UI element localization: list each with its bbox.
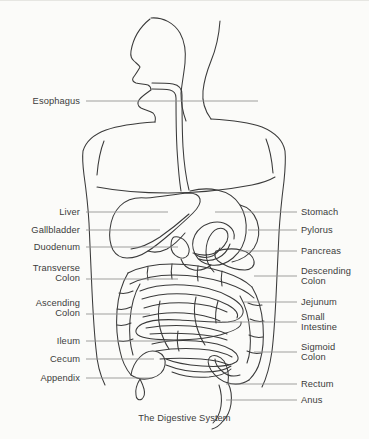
- esophagus-right-wall: [152, 83, 189, 190]
- sigmoid-colon-outline: [208, 356, 249, 384]
- ascending-colon-haustra-b: [117, 307, 131, 309]
- label-pancreas: Pancreas: [301, 246, 365, 256]
- figure-caption: The Digestive System: [0, 413, 369, 423]
- label-jejunum: Jejunum: [301, 297, 365, 307]
- esophagus-left-wall: [152, 89, 181, 191]
- stomach-greater-curve: [232, 205, 259, 262]
- label-sigmoid-colon: Sigmoid Colon: [301, 342, 365, 363]
- transverse-colon-haustra-a: [147, 267, 148, 280]
- transverse-colon-haustra-b: [171, 264, 172, 279]
- ascending-colon-haustra-a: [119, 291, 133, 293]
- neck-back-outline: [203, 21, 220, 119]
- label-transverse-colon: Transverse Colon: [14, 263, 80, 284]
- shoulder-left-crease: [97, 141, 104, 175]
- transverse-colon-haustra-c: [197, 266, 198, 281]
- label-anus: Anus: [301, 395, 365, 405]
- leader-lines: [86, 101, 297, 400]
- small-intestine-coils: [136, 285, 243, 378]
- cecum-outline: [131, 351, 165, 379]
- ascending-colon-inner: [130, 284, 140, 355]
- shoulder-right-crease: [266, 139, 273, 173]
- label-descending-colon: Descending Colon: [301, 266, 367, 287]
- label-duodenum: Duodenum: [14, 242, 80, 252]
- liver-inferior-edge: [148, 233, 185, 252]
- stomach-outline: [190, 189, 246, 265]
- appendix-outline: [136, 379, 145, 400]
- liver-lobe-crease: [131, 214, 189, 249]
- label-stomach: Stomach: [301, 207, 365, 217]
- descending-colon-haustra-b: [250, 319, 264, 321]
- label-liver: Liver: [18, 207, 80, 217]
- label-cecum: Cecum: [18, 354, 80, 364]
- ascending-colon-haustra-c: [117, 323, 131, 325]
- digestive-system-figure: Esophagus Liver Gallbladder Duodenum Tra…: [0, 0, 369, 439]
- label-rectum: Rectum: [301, 379, 365, 389]
- label-appendix: Appendix: [16, 373, 80, 383]
- descending-colon-haustra-c: [249, 335, 263, 337]
- label-ascending-colon: Ascending Colon: [14, 298, 80, 319]
- diaphragm-line: [97, 177, 275, 193]
- label-gallbladder: Gallbladder: [14, 225, 80, 235]
- head-profile-outline: [131, 19, 156, 122]
- label-pylorus: Pylorus: [301, 225, 365, 235]
- pancreas-outline: [215, 249, 254, 270]
- label-ileum: Ileum: [18, 336, 80, 346]
- duodenum-inner-wall: [199, 244, 230, 260]
- label-esophagus: Esophagus: [18, 96, 80, 106]
- head-back-outline: [151, 18, 186, 121]
- label-small-intestine: Small Intestine: [301, 312, 365, 333]
- descending-colon-outline: [249, 287, 263, 380]
- transverse-colon-haustra-d: [221, 271, 222, 286]
- liver-outline: [110, 193, 201, 258]
